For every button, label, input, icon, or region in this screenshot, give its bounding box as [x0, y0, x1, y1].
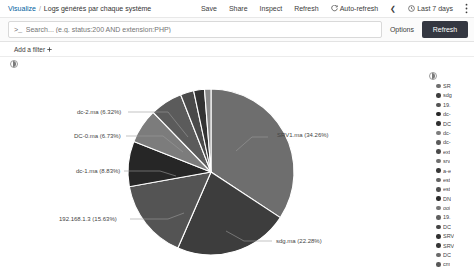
collapse-toggle-icon[interactable] — [10, 60, 18, 68]
legend-color-dot — [436, 140, 441, 145]
breadcrumb-current-title: Logs générés par chaque système — [44, 5, 151, 12]
legend-item[interactable]: 19. — [436, 101, 454, 109]
legend-item[interactable]: sdg — [436, 91, 454, 99]
add-filter-label: Add a filter — [14, 46, 45, 53]
legend-item-label: dc- — [443, 130, 451, 136]
legend-color-dot — [436, 262, 441, 267]
legend-item-label: 19. — [443, 102, 451, 108]
legend-color-dot — [436, 159, 441, 164]
breadcrumb-separator: / — [39, 5, 41, 12]
legend-item[interactable]: srv — [436, 157, 454, 165]
legend-item-label: dc- — [443, 139, 451, 145]
pie-slice-label: dc-2.ma (6.32%) — [77, 109, 121, 115]
legend-toggle-icon[interactable] — [429, 72, 437, 80]
legend-color-dot — [436, 168, 441, 173]
legend-color-dot — [436, 253, 441, 258]
legend-item[interactable]: DC — [436, 223, 454, 231]
legend-color-dot — [436, 243, 441, 248]
legend-item[interactable]: a-e — [436, 167, 454, 175]
legend-item-label: DC — [443, 224, 451, 230]
legend-item-label: cm — [443, 261, 450, 267]
query-refresh-button[interactable]: Refresh — [422, 21, 468, 38]
legend-item-label: DC — [443, 121, 451, 127]
pie-slice-label: dc-1.ma (8.83%) — [76, 168, 120, 174]
legend-item-label: DN — [443, 196, 451, 202]
legend-color-dot — [436, 225, 441, 230]
panel-collapse-strip — [0, 57, 474, 71]
auto-refresh-button[interactable]: Auto-refresh — [331, 5, 379, 12]
legend-item[interactable]: ooi — [436, 204, 454, 212]
legend-item[interactable]: est — [436, 176, 454, 184]
legend-color-dot — [436, 178, 441, 183]
pie-chart — [0, 71, 420, 272]
legend-item[interactable]: dc- — [436, 129, 454, 137]
inspect-button[interactable]: Inspect — [260, 5, 283, 12]
legend-color-dot — [436, 234, 441, 239]
console-prompt-icon: >_ — [14, 26, 22, 34]
top-action-bar: Visualize / Logs générés par chaque syst… — [0, 0, 474, 18]
legend-item[interactable]: dc- — [436, 110, 454, 118]
legend-item[interactable]: SR — [436, 82, 454, 90]
legend-color-dot — [436, 93, 441, 98]
breadcrumb-visualize[interactable]: Visualize — [8, 5, 36, 12]
legend-item[interactable]: est — [436, 185, 454, 193]
search-input[interactable] — [26, 26, 376, 33]
legend-item[interactable]: DN — [436, 195, 454, 203]
refresh-cycle-icon — [331, 5, 338, 12]
legend-item-label: SRV — [443, 233, 454, 239]
legend-color-dot — [436, 131, 441, 136]
legend-color-dot — [436, 149, 441, 154]
legend-color-dot — [436, 84, 441, 89]
visualization-area: SRV1.ma (34.26%)sdg.ma (22.28%)192.168.1… — [0, 71, 474, 272]
legend-item[interactable]: DC — [436, 251, 454, 259]
pie-chart-svg[interactable] — [0, 71, 420, 272]
time-range-label: Last 7 days — [417, 5, 453, 12]
legend-item-label: DC — [443, 252, 451, 258]
legend-item[interactable]: SRV — [436, 242, 454, 250]
legend-item[interactable]: cm — [436, 260, 454, 268]
legend-item-label: ext — [443, 149, 450, 155]
pie-slice-label: sdg.ma (22.28%) — [276, 238, 322, 244]
query-bar: >_ Options Refresh — [0, 18, 474, 42]
legend-color-dot — [436, 215, 441, 220]
legend-item-label: 19. — [443, 214, 451, 220]
legend-color-dot — [436, 103, 441, 108]
legend-item-label: srv — [443, 158, 450, 164]
legend-item[interactable]: DC — [436, 120, 454, 128]
query-options-button[interactable]: Options — [382, 26, 422, 33]
legend-item-label: dc- — [443, 111, 451, 117]
legend-item-label: ooi — [443, 205, 450, 211]
legend-item-label: SRV — [443, 243, 454, 249]
legend-item-label: sdg — [443, 92, 452, 98]
previous-period-button[interactable]: ❮ — [390, 5, 396, 13]
legend-item[interactable]: dc- — [436, 138, 454, 146]
legend-color-dot — [436, 196, 441, 201]
add-filter-button[interactable]: Add a filter — [14, 46, 52, 53]
auto-refresh-label: Auto-refresh — [340, 5, 379, 12]
legend-item[interactable]: SRV — [436, 232, 454, 240]
refresh-button[interactable]: Refresh — [294, 5, 319, 12]
legend-color-dot — [436, 206, 441, 211]
legend-item[interactable]: ext — [436, 148, 454, 156]
clock-icon — [408, 5, 415, 12]
pie-slice-label: SRV1.ma (34.26%) — [277, 132, 329, 138]
legend-item-label: est — [443, 177, 450, 183]
share-button[interactable]: Share — [229, 5, 248, 12]
chart-legend: SRsdg19.dc-DCdc-dc-extsrva-eestestDNooi1… — [428, 71, 474, 272]
pie-slice-label: 192.168.1.3 (15.63%) — [59, 216, 117, 222]
legend-color-dot — [436, 112, 441, 117]
legend-item[interactable]: 19. — [436, 213, 454, 221]
save-button[interactable]: Save — [201, 5, 217, 12]
legend-color-dot — [436, 187, 441, 192]
time-range-picker[interactable]: Last 7 days — [408, 5, 453, 12]
pie-slice-group[interactable] — [128, 89, 294, 255]
search-input-wrapper[interactable]: >_ — [8, 21, 382, 38]
legend-item-label: est — [443, 186, 450, 192]
legend-item-list: SRsdg19.dc-DCdc-dc-extsrva-eestestDNooi1… — [428, 82, 454, 268]
pie-slice-label: DC-0.ma (6.73%) — [74, 133, 121, 139]
plus-icon — [47, 46, 52, 53]
legend-color-dot — [436, 121, 441, 126]
vertical-dots-icon[interactable] — [465, 3, 468, 14]
legend-item-label: a-e — [443, 168, 451, 174]
filter-bar: Add a filter — [0, 42, 474, 57]
